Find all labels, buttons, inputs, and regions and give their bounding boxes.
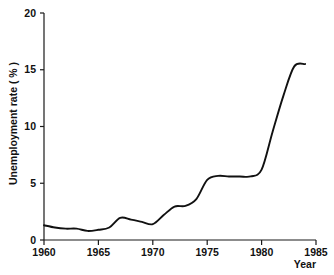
x-tick-label: 1980 — [250, 246, 274, 258]
x-axis-title: Year — [294, 258, 316, 270]
data-series-line — [44, 63, 305, 231]
x-tick-label: 1960 — [32, 246, 56, 258]
y-axis-tick-labels: 05101520 — [24, 7, 36, 246]
y-tick-label: 5 — [30, 177, 36, 189]
y-tick-label: 10 — [24, 120, 36, 132]
x-axis-tick-labels: 196019651970197519801985 — [32, 246, 328, 258]
chart-container: 05101520 196019651970197519801985 Unempl… — [0, 0, 334, 275]
unemployment-line-chart: 05101520 196019651970197519801985 Unempl… — [0, 0, 334, 275]
x-tick-label: 1970 — [141, 246, 165, 258]
x-tick-label: 1975 — [196, 246, 220, 258]
y-tick-label: 0 — [30, 234, 36, 246]
y-tick-label: 15 — [24, 63, 36, 75]
x-tick-label: 1985 — [304, 246, 328, 258]
y-axis-title: Unemployment rate ( % ) — [7, 62, 19, 185]
x-tick-label: 1965 — [87, 246, 111, 258]
x-axis-ticks — [44, 240, 316, 245]
y-tick-label: 20 — [24, 7, 36, 19]
